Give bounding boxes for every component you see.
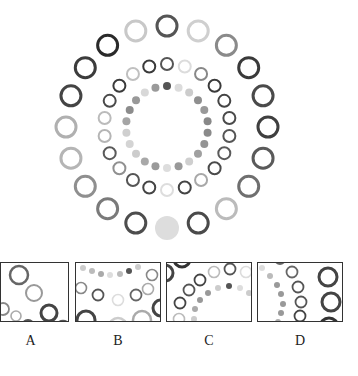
inner-ring-dot — [185, 89, 193, 97]
fragment-circle — [287, 267, 298, 278]
fragment-circle — [259, 265, 265, 271]
fragment-circle — [320, 318, 338, 322]
middle-ring-circle — [127, 68, 139, 80]
outer-ring-circle — [239, 176, 259, 196]
middle-ring-circle — [223, 112, 235, 124]
inner-ring-dot — [151, 162, 159, 170]
fragment-circle — [319, 268, 337, 286]
inner-ring-dot — [204, 129, 212, 137]
inner-ring-dot — [126, 140, 134, 148]
fragment-circle — [209, 267, 220, 278]
middle-ring-circle — [161, 184, 173, 196]
fragment-circle — [191, 316, 197, 322]
fragment-circle — [293, 282, 304, 293]
option-b-label: B — [108, 333, 128, 349]
middle-ring-circle — [113, 162, 125, 174]
fragment-circle — [278, 291, 284, 297]
fragment-circle — [1, 303, 9, 315]
inner-ring-dot — [194, 96, 202, 104]
inner-ring-dot — [141, 89, 149, 97]
option-a-label: A — [21, 333, 41, 349]
middle-ring-circle — [218, 95, 230, 107]
middle-ring-circle — [223, 130, 235, 142]
fragment-circle — [275, 263, 285, 264]
outer-ring-circle — [258, 117, 278, 137]
outer-ring-circle — [75, 176, 95, 196]
middle-ring-circle — [113, 80, 125, 92]
middle-ring-circle — [195, 68, 207, 80]
fragment-circle — [117, 271, 123, 277]
option-b-box[interactable] — [75, 262, 161, 322]
fragment-circle — [215, 285, 221, 291]
outer-ring-circle — [61, 148, 81, 168]
fragment-circle — [275, 319, 281, 322]
fragment-circle — [192, 306, 198, 312]
fragment-circle — [322, 293, 340, 311]
option-c-label: C — [199, 333, 219, 349]
inner-ring-dot — [204, 117, 212, 125]
inner-ring-dot — [175, 162, 183, 170]
inner-ring-dot — [132, 96, 140, 104]
fragment-circle — [153, 300, 161, 316]
inner-ring-dot — [185, 157, 193, 165]
fragment-circle — [280, 301, 286, 307]
option-d-box[interactable] — [257, 262, 343, 322]
fragment-circle — [184, 285, 195, 296]
middle-ring-circle — [209, 162, 221, 174]
middle-ring-circle — [161, 58, 173, 70]
inner-ring-dot — [200, 140, 208, 148]
inner-ring-dot — [163, 164, 171, 172]
option-fragment — [258, 263, 343, 322]
fragment-circle — [26, 285, 42, 301]
outer-ring-circle — [253, 86, 273, 106]
middle-ring-circle — [143, 61, 155, 73]
concentric-circle-figure — [0, 0, 358, 250]
fragment-circle — [41, 305, 57, 321]
outer-ring-circle — [75, 58, 95, 78]
fragment-circle — [109, 318, 127, 322]
middle-ring-circle — [218, 147, 230, 159]
option-c-box[interactable] — [166, 262, 252, 322]
outer-ring-circle — [98, 199, 118, 219]
fragment-circle — [113, 295, 124, 306]
outer-ring-circle — [253, 148, 273, 168]
fragment-circle — [133, 311, 151, 322]
fragment-circle — [195, 275, 206, 286]
outer-ring-circle — [216, 35, 236, 55]
inner-ring-dot — [163, 82, 171, 90]
fragment-circle — [241, 267, 252, 278]
fragment-circle — [80, 265, 86, 271]
fragment-circle — [93, 290, 104, 301]
fragment-circle — [77, 311, 95, 322]
fragment-circle — [174, 263, 190, 267]
outer-ring-circle — [98, 35, 118, 55]
fragment-circle — [205, 290, 211, 296]
fragment-circle — [295, 311, 306, 322]
fragment-circle — [135, 264, 141, 270]
middle-ring-circle — [104, 147, 116, 159]
outer-ring-circle — [188, 213, 208, 233]
outer-ring-circle — [56, 117, 76, 137]
middle-ring-circle — [179, 181, 191, 193]
fragment-circle — [167, 265, 173, 281]
inner-ring-dot — [194, 150, 202, 158]
fragment-circle — [56, 321, 69, 322]
middle-ring-circle — [99, 130, 111, 142]
fragment-circle — [226, 283, 232, 289]
fragment-circle — [246, 290, 252, 296]
outer-ring-circle — [126, 213, 146, 233]
middle-ring-circle — [143, 181, 155, 193]
fragment-circle — [126, 268, 132, 274]
inner-ring-dot — [141, 157, 149, 165]
fragment-circle — [11, 311, 21, 321]
option-a-box[interactable] — [0, 262, 69, 322]
inner-ring-dot — [132, 150, 140, 158]
inner-ring-dot — [122, 117, 130, 125]
outer-ring-circle — [157, 16, 177, 36]
fragment-circle — [296, 297, 307, 308]
fragment-circle — [22, 320, 34, 322]
inner-ring-dot — [175, 84, 183, 92]
outer-ring-circle — [61, 86, 81, 106]
option-fragment — [167, 263, 252, 322]
fragment-circle — [267, 273, 273, 279]
